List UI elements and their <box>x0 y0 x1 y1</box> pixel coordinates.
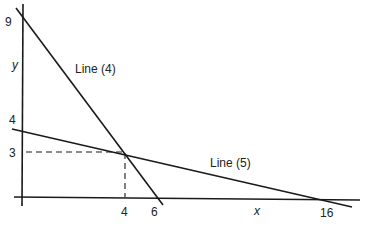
line-4-label: Line (4) <box>75 62 116 76</box>
x-axis-label: x <box>253 204 261 218</box>
line-5 <box>12 129 352 207</box>
y-tick-9: 9 <box>5 15 12 29</box>
x-tick-6: 6 <box>151 205 158 219</box>
x-tick-16: 16 <box>320 206 334 220</box>
y-tick-4: 4 <box>9 113 16 127</box>
x-tick-4: 4 <box>121 205 128 219</box>
y-axis <box>22 4 23 206</box>
y-tick-3: 3 <box>9 146 16 160</box>
line-5-label: Line (5) <box>210 156 251 170</box>
line-4 <box>16 8 163 205</box>
y-axis-label: y <box>11 58 19 72</box>
linear-programming-diagram: 9 4 3 4 6 16 y x Line (4) Line (5) <box>0 0 375 231</box>
